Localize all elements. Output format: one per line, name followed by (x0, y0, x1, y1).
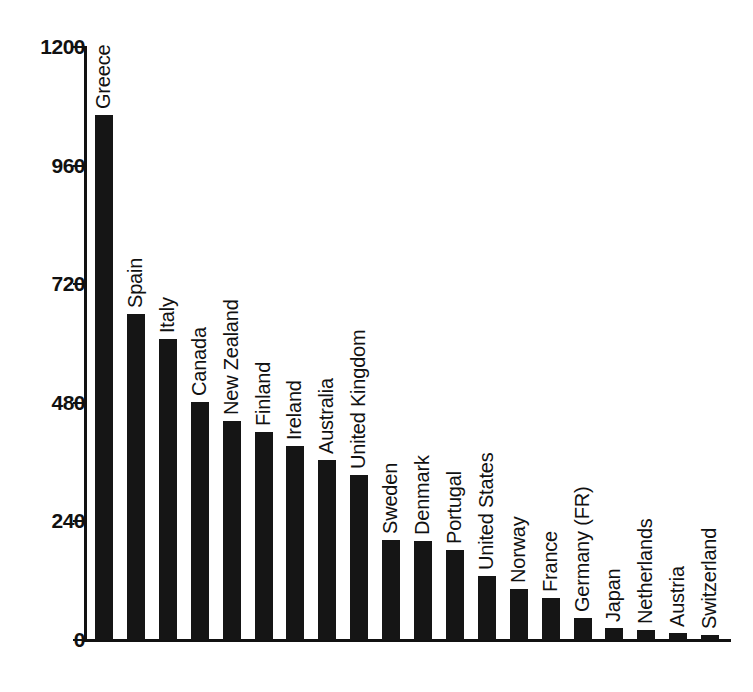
bar-category-label: United States (476, 452, 496, 569)
bar-category-label: Greece (93, 44, 113, 108)
bar (159, 339, 177, 640)
bar (637, 630, 655, 640)
bar-group: Portugal (446, 550, 464, 640)
bar-category-label: Finland (253, 362, 273, 426)
bar-category-label: Germany (FR) (572, 486, 592, 611)
bar-group: Greece (95, 115, 113, 640)
bar-category-label: Netherlands (635, 518, 655, 624)
bar (223, 421, 241, 640)
bar-group: Austria (669, 633, 687, 640)
bar (701, 635, 719, 640)
bar (191, 402, 209, 640)
bar-group: Finland (255, 432, 273, 640)
bar-chart: 02404807209601200 GreeceSpainItalyCanada… (0, 0, 753, 692)
bar-category-label: Switzerland (699, 528, 719, 629)
bar (286, 446, 304, 640)
bar-category-label: Australia (316, 378, 336, 454)
bar-group: Netherlands (637, 630, 655, 640)
bar-category-label: Denmark (412, 455, 432, 535)
bar (414, 541, 432, 640)
bar (446, 550, 464, 640)
bar-group: Norway (510, 589, 528, 640)
bar (574, 618, 592, 640)
bar (255, 432, 273, 640)
bar-category-label: Canada (189, 327, 209, 396)
bar-group: United States (478, 576, 496, 640)
bar-group: United Kingdom (350, 475, 368, 640)
bar-group: New Zealand (223, 421, 241, 640)
bar (95, 115, 113, 640)
bar-category-label: New Zealand (221, 299, 241, 415)
bar-group: Denmark (414, 541, 432, 640)
bar (478, 576, 496, 640)
bar-group: Canada (191, 402, 209, 640)
bar (669, 633, 687, 640)
bar-category-label: Sweden (380, 463, 400, 534)
bar (318, 460, 336, 640)
bar-category-label: Italy (157, 297, 177, 333)
bar (382, 540, 400, 640)
bar-category-label: Norway (508, 517, 528, 584)
bar-group: Spain (127, 314, 145, 640)
bar-group: Italy (159, 339, 177, 640)
bar-category-label: Portugal (444, 471, 464, 544)
bar-category-label: Japan (603, 568, 623, 622)
bar (605, 628, 623, 640)
bar (510, 589, 528, 640)
bar-category-label: Austria (667, 566, 687, 627)
bar-category-label: United Kingdom (348, 329, 368, 469)
bar-group: Switzerland (701, 635, 719, 640)
bar-group: Germany (FR) (574, 618, 592, 640)
bar-group: Japan (605, 628, 623, 640)
bar-category-label: Ireland (284, 381, 304, 441)
bar (350, 475, 368, 640)
bar (127, 314, 145, 640)
bar-group: France (542, 598, 560, 640)
bar (542, 598, 560, 640)
bar-category-label: France (540, 531, 560, 592)
plot-area: GreeceSpainItalyCanadaNew ZealandFinland… (0, 0, 753, 692)
bar-group: Sweden (382, 540, 400, 640)
bar-category-label: Spain (125, 258, 145, 308)
bar-group: Ireland (286, 446, 304, 640)
bar-group: Australia (318, 460, 336, 640)
